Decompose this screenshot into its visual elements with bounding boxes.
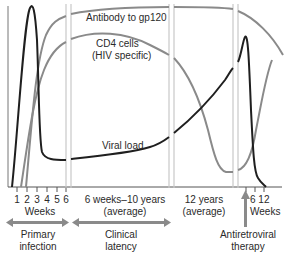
tick-label: 3 xyxy=(33,194,41,205)
latency-range-line1: 6 weeks–10 years xyxy=(80,194,170,205)
latency-range-line2: (average) xyxy=(80,206,170,217)
therapy-label-line2: therapy xyxy=(212,241,284,252)
weeks-therapy-label: Weeks xyxy=(250,206,280,217)
therapy-ticks xyxy=(246,187,264,192)
clinical-latency-arrow xyxy=(72,218,171,227)
tick-label: 2 xyxy=(23,194,31,205)
cd4-label-line1: CD4 cells xyxy=(96,38,139,49)
viral-load-label: Viral load xyxy=(102,140,144,151)
phase-latency-line2: latency xyxy=(100,241,142,252)
therapy-label-line1: Antiretroviral xyxy=(212,229,284,240)
primary-infection-arrow xyxy=(6,218,69,227)
late-range-line2: (average) xyxy=(178,206,230,217)
phase-latency-line1: Clinical xyxy=(100,229,142,240)
tick-label: 4 xyxy=(43,194,51,205)
primary-ticks xyxy=(17,187,66,192)
weeks-primary-label: Weeks xyxy=(20,206,60,217)
antiretroviral-therapy-arrow xyxy=(241,190,250,227)
cd4-label-line2: (HIV specific) xyxy=(92,50,151,61)
tick-label: 5 xyxy=(53,194,61,205)
therapy-tick-labels: 6 12 xyxy=(250,194,269,205)
late-range-line1: 12 years xyxy=(178,194,230,205)
viral-load-curve xyxy=(12,6,266,187)
phase-primary-line1: Primary xyxy=(8,229,68,240)
phase-primary-line2: infection xyxy=(8,241,68,252)
antibody-label: Antibody to gp120 xyxy=(86,12,167,23)
tick-label: 1 xyxy=(13,194,21,205)
tick-label: 6 xyxy=(62,194,70,205)
